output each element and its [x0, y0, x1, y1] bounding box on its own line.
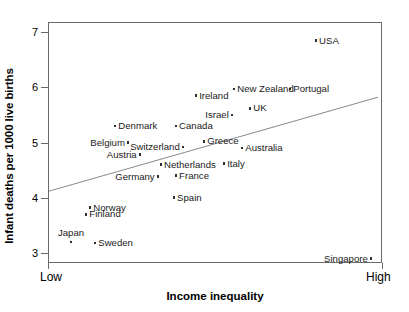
- y-tick-label: 6: [26, 87, 38, 88]
- data-point[interactable]: [114, 125, 117, 128]
- data-point-label: Finland: [89, 209, 120, 219]
- x-axis-low-label: Low: [40, 270, 62, 284]
- data-point[interactable]: [223, 162, 226, 165]
- data-point[interactable]: [94, 242, 97, 245]
- y-tick-mark: [41, 253, 48, 254]
- data-point-label: Italy: [227, 159, 245, 169]
- data-point-label: Canada: [179, 121, 213, 131]
- data-point-label: Spain: [177, 193, 202, 203]
- data-point-label: Japan: [58, 228, 84, 238]
- data-point-label: Germany: [115, 172, 154, 182]
- data-point-label: USA: [319, 36, 339, 46]
- data-point-label: Ireland: [199, 91, 228, 101]
- data-point-label: UK: [253, 103, 266, 113]
- y-tick-label: 4: [26, 198, 38, 199]
- y-axis-title: Infant deaths per 1000 live births: [0, 0, 18, 312]
- x-axis-title: Income inequality: [48, 290, 382, 302]
- scatter-plot-figure: Infant deaths per 1000 live births 34567…: [0, 0, 409, 312]
- x-tick-mark: [48, 263, 49, 269]
- data-point-label: Austria: [107, 150, 137, 160]
- data-point-label: Netherlands: [164, 160, 216, 170]
- y-tick-mark: [41, 87, 48, 88]
- data-point[interactable]: [289, 88, 292, 91]
- data-point[interactable]: [233, 88, 236, 91]
- x-tick-mark: [382, 263, 383, 269]
- data-point-label: Sweden: [98, 238, 133, 248]
- data-point[interactable]: [173, 196, 176, 199]
- data-point[interactable]: [249, 107, 252, 110]
- y-tick-mark: [41, 198, 48, 199]
- data-point-label: Greece: [207, 136, 238, 146]
- data-point[interactable]: [160, 163, 163, 166]
- data-point[interactable]: [139, 153, 142, 156]
- data-point-label: Portugal: [293, 84, 329, 94]
- data-point-label: New Zealand: [237, 84, 294, 94]
- y-tick-label: 3: [26, 253, 38, 254]
- data-point[interactable]: [175, 125, 178, 128]
- data-point-label: Singapore: [324, 254, 368, 264]
- data-point[interactable]: [70, 241, 73, 244]
- y-tick-label: 7: [26, 32, 38, 33]
- data-point[interactable]: [85, 213, 88, 216]
- data-point[interactable]: [127, 141, 130, 144]
- data-point-label: Switzerland: [130, 142, 180, 152]
- data-point-label: Australia: [245, 143, 282, 153]
- data-point[interactable]: [241, 147, 244, 150]
- data-point-label: Belgium: [90, 138, 125, 148]
- data-point[interactable]: [370, 257, 373, 260]
- data-point[interactable]: [315, 39, 318, 42]
- data-point[interactable]: [231, 114, 234, 117]
- data-point-label: Israel: [205, 110, 228, 120]
- data-point[interactable]: [175, 174, 178, 177]
- data-point-label: Denmark: [118, 121, 157, 131]
- data-point-label: France: [179, 171, 209, 181]
- data-point[interactable]: [195, 94, 198, 97]
- x-axis-high-label: High: [366, 270, 391, 284]
- y-tick-mark: [41, 32, 48, 33]
- data-point[interactable]: [203, 140, 206, 143]
- y-tick-label: 5: [26, 143, 38, 144]
- y-tick-mark: [41, 143, 48, 144]
- data-point[interactable]: [157, 175, 160, 178]
- data-point[interactable]: [182, 146, 185, 149]
